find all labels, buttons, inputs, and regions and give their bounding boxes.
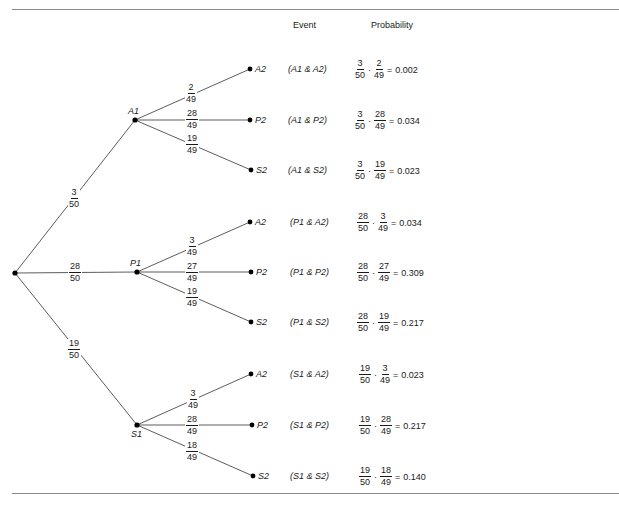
- branch-prob-s1-a2: 3 49: [187, 389, 199, 410]
- branch-prob-a1-s2: 19 49: [185, 134, 199, 155]
- leaf-label: P2: [255, 115, 266, 125]
- branch-prob-s1: 19 50: [67, 339, 81, 360]
- event-label: (P1 & A2): [290, 217, 329, 227]
- event-label: (S1 & A2): [290, 369, 329, 379]
- leaf-label: S2: [256, 165, 267, 175]
- branch-prob-a1: 3 50: [68, 188, 80, 209]
- event-label: (A1 & P2): [288, 115, 327, 125]
- node-label-a1: A1: [128, 106, 139, 116]
- event-label: (A1 & A2): [288, 64, 327, 74]
- node-label-s1: S1: [131, 429, 142, 439]
- event-label: (A1 & S2): [288, 165, 327, 175]
- branch-prob-a1-p2: 28 49: [185, 109, 199, 130]
- prob-calc: 350 · 2849 = 0.034: [355, 110, 420, 131]
- prob-calc: 1950 · 2849 = 0.217: [359, 415, 426, 436]
- leaf-label: A2: [256, 369, 267, 379]
- branch-prob-p1-a2: 3 49: [186, 236, 198, 257]
- prob-result: 0.309: [401, 268, 424, 278]
- prob-result: 0.023: [397, 166, 420, 176]
- leaf-label: A2: [255, 217, 266, 227]
- leaf-label: P2: [257, 420, 268, 430]
- branch-prob-s1-p2: 28 49: [185, 415, 199, 436]
- prob-calc: 2850 · 2749 = 0.309: [357, 262, 424, 283]
- prob-result: 0.034: [399, 218, 422, 228]
- prob-result: 0.217: [403, 421, 426, 431]
- node-label-p1: P1: [130, 258, 141, 268]
- prob-calc: 1950 · 349 = 0.023: [359, 364, 424, 385]
- branch-prob-p1: 28 50: [68, 262, 82, 283]
- prob-result: 0.140: [403, 472, 426, 482]
- branch-prob-a1-a2: 2 49: [185, 83, 197, 104]
- node-p1: [134, 269, 139, 274]
- prob-result: 0.034: [397, 116, 420, 126]
- prob-result: 0.002: [395, 65, 418, 75]
- event-label: (S1 & P2): [290, 420, 329, 430]
- prob-calc: 2850 · 1949 = 0.217: [357, 312, 424, 333]
- prob-calc: 350 · 1949 = 0.023: [355, 160, 420, 181]
- leaf-label: S2: [258, 471, 269, 481]
- leaf-label: S2: [256, 317, 267, 327]
- branch-prob-p1-s2: 19 49: [185, 287, 199, 308]
- leaf-label: A2: [255, 64, 266, 74]
- header-probability: Probability: [371, 20, 413, 30]
- event-label: (P1 & S2): [290, 317, 329, 327]
- node-a1: [132, 117, 137, 122]
- prob-result: 0.023: [401, 370, 424, 380]
- branch-prob-s1-s2: 18 49: [185, 441, 199, 462]
- event-label: (S1 & S2): [290, 471, 329, 481]
- prob-calc: 1950 · 1849 = 0.140: [359, 466, 426, 487]
- prob-calc: 350 · 249 = 0.002: [355, 59, 418, 80]
- branch-prob-p1-p2: 27 49: [185, 262, 199, 283]
- prob-result: 0.217: [401, 318, 424, 328]
- leaf-label: P2: [256, 267, 267, 277]
- event-label: (P1 & P2): [290, 267, 329, 277]
- prob-calc: 2850 · 349 = 0.034: [357, 212, 422, 233]
- node-s1: [134, 422, 139, 427]
- root-node: [12, 270, 17, 275]
- header-event: Event: [293, 20, 316, 30]
